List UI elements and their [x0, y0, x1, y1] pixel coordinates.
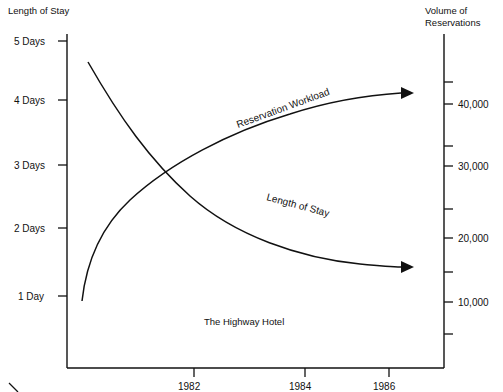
- left-tick-label-3: 3 Days: [14, 160, 45, 171]
- left-tick-label-4: 4 Days: [14, 95, 45, 106]
- series-reservation-workload-arrow: [401, 87, 414, 99]
- x-tick-label-1984: 1984: [289, 381, 312, 392]
- x-tick-label-1982: 1982: [178, 381, 201, 392]
- series-length-of-stay-curve: [88, 62, 401, 267]
- series-label-length-of-stay: Length of Stay: [265, 191, 330, 218]
- series-label-reservation-workload: Reservation Workload: [235, 86, 331, 130]
- left-tick-label-2: 2 Days: [14, 223, 45, 234]
- right-axis-title-line1: Volume of: [425, 5, 468, 16]
- right-axis-title-line2: Reservations: [425, 17, 481, 28]
- chart-figure: Length of Stay Volume of Reservations 5 …: [0, 0, 503, 392]
- right-tick-label-20000: 20,000: [458, 233, 489, 244]
- left-tick-label-5: 5 Days: [14, 36, 45, 47]
- right-axis-ticks: 40,000 30,000 20,000 10,000: [444, 82, 489, 334]
- left-tick-label-1: 1 Day: [18, 291, 44, 302]
- left-axis-ticks: 5 Days 4 Days 3 Days 2 Days 1 Day: [14, 36, 67, 302]
- x-axis-ticks: 1982 1984 1986: [9, 368, 396, 392]
- chart-annotation: The Highway Hotel: [204, 316, 284, 327]
- right-tick-label-10000: 10,000: [458, 297, 489, 308]
- left-axis-title: Length of Stay: [8, 5, 70, 16]
- series-length-of-stay-arrow: [401, 261, 414, 273]
- chart-container: Length of Stay Volume of Reservations 5 …: [0, 0, 503, 392]
- right-tick-label-40000: 40,000: [458, 99, 489, 110]
- right-tick-label-30000: 30,000: [458, 161, 489, 172]
- x-tick-label-1986: 1986: [373, 381, 396, 392]
